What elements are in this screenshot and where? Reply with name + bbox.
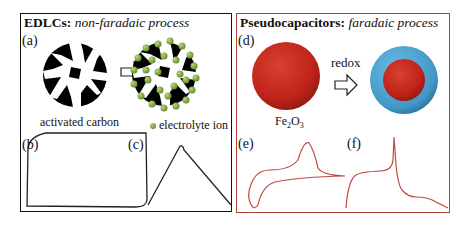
edlc-title-italic: non-faradaic process <box>75 15 190 30</box>
pseudocapacitor-title: Pseudocapacitors: faradaic process <box>240 15 438 31</box>
label-a: (a) <box>22 33 38 49</box>
edlc-title: EDLCs: non-faradaic process <box>24 15 189 31</box>
electrolyte-ion-caption: electrolyte ion <box>159 118 228 133</box>
label-c: (c) <box>128 137 144 153</box>
label-e: (e) <box>238 136 254 152</box>
activated-carbon-caption: activated carbon <box>40 115 119 130</box>
edlc-title-bold: EDLCs: <box>24 15 71 30</box>
redox-arrow-icon <box>335 75 357 95</box>
label-d: (d) <box>238 33 254 49</box>
fe2o3-caption: Fe2O3 <box>275 114 304 130</box>
label-b: (b) <box>22 137 38 153</box>
pseudo-title-italic: faradaic process <box>348 15 438 30</box>
pseudocapacitive-cv-curve <box>249 143 345 208</box>
fe2o3-sphere <box>252 42 320 110</box>
activated-carbon-disk <box>43 43 107 107</box>
charge-discharge-triangle <box>148 146 231 205</box>
label-f: (f) <box>347 136 361 152</box>
pseudocapacitive-gcd-curve <box>346 137 448 208</box>
pseudo-title-bold: Pseudocapacitors: <box>240 15 345 30</box>
electrolyte-ion-legend-icon <box>150 123 156 129</box>
core-sphere <box>383 59 425 101</box>
redox-caption: redox <box>331 55 361 71</box>
